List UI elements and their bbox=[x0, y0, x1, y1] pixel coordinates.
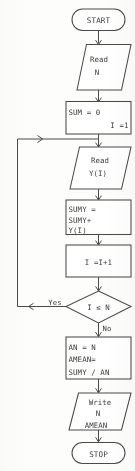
node-init-line-2: I =1 bbox=[110, 121, 128, 130]
node-read-y-line-2: Y(I) bbox=[89, 169, 107, 178]
node-read-y-line-1: Read bbox=[91, 156, 109, 165]
node-compute-mean-line-2: AMEAN= bbox=[69, 355, 97, 364]
node-read-y: Read Y(I) bbox=[70, 147, 131, 189]
node-stop: STOP bbox=[72, 443, 125, 464]
node-read-n-line-1: Read bbox=[90, 55, 108, 64]
node-write-line-3: AMEAN bbox=[85, 421, 108, 430]
node-stop-label: STOP bbox=[89, 450, 108, 459]
node-accumulate-line-1: SUMY = bbox=[69, 205, 97, 214]
node-decision-label: I ≤ N bbox=[87, 303, 110, 312]
node-read-n-line-2: N bbox=[95, 68, 100, 77]
flowchart-svg: START Read N SUM = 0 I =1 Read Y(I) SUMY… bbox=[0, 0, 135, 471]
node-init-line-1: SUM = 0 bbox=[69, 108, 101, 117]
node-start-label: START bbox=[87, 16, 111, 25]
node-compute-mean-line-1: AN = N bbox=[69, 343, 96, 352]
node-compute-mean: AN = N AMEAN= SUMY / AN bbox=[66, 337, 131, 379]
node-accumulate: SUMY = SUMY+ Y(I) bbox=[66, 200, 131, 235]
node-write-line-2: N bbox=[96, 409, 101, 418]
flowchart-canvas: START Read N SUM = 0 I =1 Read Y(I) SUMY… bbox=[0, 0, 135, 471]
node-read-n: Read N bbox=[77, 45, 131, 91]
node-init: SUM = 0 I =1 bbox=[66, 102, 131, 135]
node-accumulate-line-3: Y(I) bbox=[69, 226, 87, 235]
node-increment-label: I =I+1 bbox=[85, 258, 112, 267]
node-decision: I ≤ N bbox=[66, 291, 131, 323]
node-accumulate-line-2: SUMY+ bbox=[69, 216, 92, 225]
edge-label-yes: Yes bbox=[48, 298, 61, 307]
node-write: Write N AMEAN bbox=[69, 393, 131, 430]
node-start: START bbox=[72, 9, 125, 31]
connectors bbox=[18, 31, 102, 442]
edge-label-no: No bbox=[103, 324, 112, 333]
node-increment: I =I+1 bbox=[66, 245, 131, 277]
node-write-line-1: Write bbox=[89, 398, 112, 407]
node-compute-mean-line-3: SUMY / AN bbox=[69, 368, 110, 377]
